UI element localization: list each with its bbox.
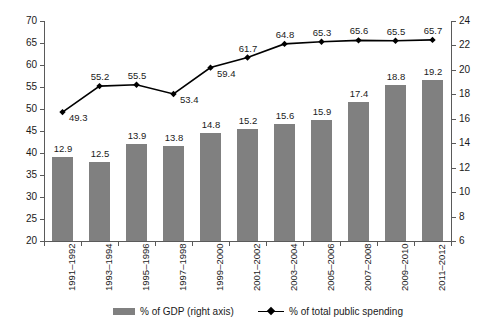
right-axis-tick-label: 22 xyxy=(459,40,485,50)
left-axis-line xyxy=(44,21,45,242)
right-axis-tick-label: 20 xyxy=(459,65,485,75)
left-axis-tick-label: 35 xyxy=(4,170,37,180)
legend-item-gdp: % of GDP (right axis) xyxy=(113,306,234,317)
right-axis-line xyxy=(451,21,452,242)
line-marker-diamond xyxy=(392,38,398,44)
right-axis-tick xyxy=(452,119,456,120)
left-axis-tick xyxy=(40,65,44,66)
bar xyxy=(89,162,110,241)
bar xyxy=(200,133,221,241)
bar-value-label: 15.2 xyxy=(232,116,264,126)
x-axis-tick xyxy=(192,242,193,246)
left-axis-tick xyxy=(40,43,44,44)
left-axis-tick-label: 45 xyxy=(4,126,37,136)
right-axis-tick-label: 24 xyxy=(459,16,485,26)
x-axis-category-label: 2011–2012 xyxy=(437,244,447,291)
bar-value-label: 18.8 xyxy=(380,72,412,82)
right-axis-tick xyxy=(452,143,456,144)
right-axis-tick xyxy=(452,241,456,242)
legend-item-public-spending: % of total public spending xyxy=(258,306,403,317)
x-axis-tick xyxy=(81,242,82,246)
bar xyxy=(52,157,73,241)
right-axis-tick-label: 12 xyxy=(459,163,485,173)
right-axis-tick xyxy=(452,192,456,193)
left-axis-tick xyxy=(40,109,44,110)
left-axis-tick xyxy=(40,87,44,88)
bar xyxy=(385,85,406,241)
left-axis-tick xyxy=(40,131,44,132)
line-value-label: 65.3 xyxy=(310,28,334,38)
left-axis-tick-label: 65 xyxy=(4,38,37,48)
x-axis-line xyxy=(44,241,452,242)
bar xyxy=(163,146,184,241)
line-value-label: 65.7 xyxy=(421,26,445,36)
right-axis-tick xyxy=(452,70,456,71)
line-value-label: 65.5 xyxy=(384,27,408,37)
x-axis-category-label: 2003–2004 xyxy=(289,243,299,291)
legend-label-gdp: % of GDP (right axis) xyxy=(140,306,234,317)
x-axis-tick xyxy=(414,242,415,246)
right-axis-tick xyxy=(452,21,456,22)
x-axis-tick xyxy=(155,242,156,246)
bar-value-label: 15.6 xyxy=(269,111,301,121)
bar xyxy=(348,102,369,241)
line-marker-diamond xyxy=(96,83,102,89)
left-axis-tick-label: 60 xyxy=(4,60,37,70)
bar xyxy=(274,124,295,241)
line-marker-diamond xyxy=(318,38,324,44)
x-axis-category-label: 1999–2000 xyxy=(215,243,225,291)
x-axis-tick xyxy=(451,242,452,246)
x-axis-category-label: 1997–1998 xyxy=(178,243,188,291)
bar-value-label: 13.9 xyxy=(121,131,153,141)
chart-figure: 2025303540455055606570 68101214161820222… xyxy=(0,0,487,334)
right-axis-tick-label: 8 xyxy=(459,212,485,222)
bar-value-label: 19.2 xyxy=(417,67,449,77)
x-axis-tick xyxy=(229,242,230,246)
legend-label-public-spending: % of total public spending xyxy=(289,306,403,317)
x-axis-category-label: 2007–2008 xyxy=(363,243,373,291)
left-axis-tick-label: 70 xyxy=(4,16,37,26)
line-value-label: 49.3 xyxy=(69,113,88,123)
bar-value-label: 12.9 xyxy=(47,144,79,154)
right-axis-tick-label: 6 xyxy=(459,236,485,246)
bar-value-label: 15.9 xyxy=(306,107,338,117)
right-axis-tick xyxy=(452,168,456,169)
left-axis-tick xyxy=(40,153,44,154)
x-axis-tick xyxy=(340,242,341,246)
line-marker-diamond xyxy=(59,109,65,115)
right-axis-tick-label: 16 xyxy=(459,114,485,124)
left-axis-tick-label: 20 xyxy=(4,236,37,246)
bar xyxy=(237,129,258,241)
line-value-label: 55.5 xyxy=(125,71,149,81)
line-marker-diamond xyxy=(170,91,176,97)
x-axis-tick xyxy=(44,242,45,246)
bar xyxy=(422,80,443,241)
right-axis-tick xyxy=(452,94,456,95)
bar-value-label: 13.8 xyxy=(158,133,190,143)
left-axis-tick-label: 40 xyxy=(4,148,37,158)
left-axis-tick-label: 30 xyxy=(4,192,37,202)
bar xyxy=(311,120,332,241)
left-axis-tick xyxy=(40,219,44,220)
right-axis-tick-label: 18 xyxy=(459,89,485,99)
bar-value-label: 17.4 xyxy=(343,89,375,99)
legend-line-diamond-icon xyxy=(258,307,284,317)
left-axis-tick xyxy=(40,197,44,198)
bar xyxy=(126,144,147,241)
left-axis-tick-label: 55 xyxy=(4,82,37,92)
line-value-label: 55.2 xyxy=(88,72,112,82)
line-marker-diamond xyxy=(207,64,213,70)
line-value-label: 59.4 xyxy=(217,69,236,79)
left-axis-tick xyxy=(40,21,44,22)
x-axis-tick xyxy=(377,242,378,246)
x-axis-tick xyxy=(303,242,304,246)
line-marker-diamond xyxy=(244,54,250,60)
bar-value-label: 14.8 xyxy=(195,120,227,130)
line-value-label: 65.6 xyxy=(347,26,371,36)
x-axis-category-label: 1991–1992 xyxy=(67,243,77,291)
line-value-label: 64.8 xyxy=(273,30,297,40)
legend-bar-swatch-icon xyxy=(113,308,135,315)
x-axis-category-label: 1995–1996 xyxy=(141,243,151,291)
x-axis-tick xyxy=(266,242,267,246)
left-axis-tick xyxy=(40,175,44,176)
